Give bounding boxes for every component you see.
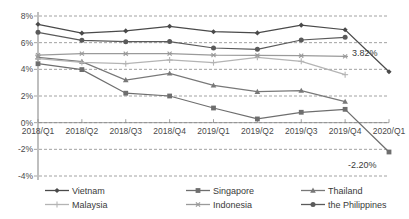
data-point-diamond-marker: [255, 30, 260, 35]
x-axis-tick-label: 2019/Q3: [281, 126, 321, 136]
legend-marker-diamond-icon: [44, 185, 70, 196]
series-indonesia: [35, 52, 348, 59]
data-point-diamond-marker: [54, 188, 59, 193]
legend-label: Thailand: [328, 186, 363, 196]
series-malaysia: [35, 54, 348, 77]
legend-marker-circle-icon: [300, 199, 326, 210]
y-axis-tick-label: 4%: [0, 64, 33, 74]
data-point-triangle-marker: [167, 70, 173, 75]
annotation-singapore-end: -2.20%: [348, 160, 377, 170]
data-point-asterisk-marker: [195, 202, 201, 206]
x-axis-tick-label: 2019/Q1: [194, 126, 234, 136]
legend-item-singapore[interactable]: Singapore: [185, 184, 254, 197]
legend-item-the-philippines[interactable]: the Philippines: [300, 198, 387, 211]
data-point-asterisk-marker: [167, 52, 173, 56]
data-point-plus-marker: [211, 60, 217, 66]
legend-marker-square-icon: [185, 185, 211, 196]
x-axis-tick-label: 2018/Q1: [18, 126, 58, 136]
data-point-plus-marker: [79, 59, 85, 65]
data-point-plus-marker: [298, 58, 304, 64]
data-point-asterisk-marker: [298, 54, 304, 58]
legend-item-thailand[interactable]: Thailand: [300, 184, 363, 197]
data-point-diamond-marker: [299, 23, 304, 28]
data-point-diamond-marker: [79, 31, 84, 36]
data-point-diamond-marker: [123, 28, 128, 33]
data-point-plus-marker: [167, 57, 173, 63]
data-point-square-marker: [211, 106, 216, 111]
x-axis-tick-label: 2019/Q2: [237, 126, 277, 136]
legend-marker-plus-icon: [44, 199, 70, 210]
x-axis-tick-label: 2018/Q3: [106, 126, 146, 136]
data-point-square-marker: [196, 188, 201, 193]
legend-label: Vietnam: [72, 186, 105, 196]
data-point-diamond-marker: [211, 29, 216, 34]
data-point-diamond-marker: [35, 22, 40, 27]
data-point-square-marker: [255, 117, 260, 122]
data-point-circle-marker: [211, 46, 216, 51]
y-axis-tick-label: -2%: [0, 144, 33, 154]
data-point-square-marker: [79, 67, 84, 72]
data-point-asterisk-marker: [211, 53, 217, 57]
data-point-plus-marker: [342, 72, 348, 78]
data-point-plus-marker: [123, 61, 129, 67]
legend-label: the Philippines: [328, 200, 387, 210]
chart-legend: VietnamSingaporeThailandMalaysiaIndonesi…: [0, 184, 395, 219]
data-point-square-marker: [123, 91, 128, 96]
data-point-circle-marker: [167, 39, 172, 44]
y-axis-tick-label: 8%: [0, 11, 33, 21]
legend-label: Malaysia: [72, 200, 108, 210]
data-point-circle-marker: [343, 35, 348, 40]
data-point-circle-marker: [79, 38, 84, 43]
legend-item-vietnam[interactable]: Vietnam: [44, 184, 105, 197]
data-point-asterisk-marker: [79, 52, 85, 56]
legend-item-indonesia[interactable]: Indonesia: [185, 198, 252, 211]
data-point-square-marker: [36, 61, 41, 66]
data-point-circle-marker: [299, 38, 304, 43]
data-point-square-marker: [343, 107, 348, 112]
x-axis-tick-label: 2019/Q4: [325, 126, 365, 136]
legend-marker-triangle-icon: [300, 185, 326, 196]
series-singapore: [36, 61, 392, 154]
data-point-square-marker: [167, 94, 172, 99]
data-point-asterisk-marker: [342, 54, 348, 58]
legend-item-malaysia[interactable]: Malaysia: [44, 198, 108, 211]
data-point-asterisk-marker: [123, 52, 129, 56]
x-axis-tick-label: 2018/Q2: [62, 126, 102, 136]
data-point-circle-marker: [311, 202, 316, 207]
legend-label: Indonesia: [213, 200, 252, 210]
y-axis-tick-label: 2%: [0, 91, 33, 101]
y-axis-tick-label: 6%: [0, 38, 33, 48]
data-point-circle-marker: [36, 30, 41, 35]
y-axis-tick-label: -4%: [0, 171, 33, 181]
data-point-circle-marker: [255, 47, 260, 52]
legend-label: Singapore: [213, 186, 254, 196]
data-point-diamond-marker: [167, 24, 172, 29]
annotation-vietnam-end: 3.82%: [352, 48, 378, 58]
data-point-plus-marker: [54, 202, 60, 208]
data-point-circle-marker: [123, 39, 128, 44]
x-axis-tick-label: 2020/Q1: [369, 126, 409, 136]
x-axis-tick-label: 2018/Q4: [150, 126, 190, 136]
data-point-square-marker: [299, 110, 304, 115]
data-point-square-marker: [387, 150, 392, 155]
legend-marker-asterisk-icon: [185, 199, 211, 210]
